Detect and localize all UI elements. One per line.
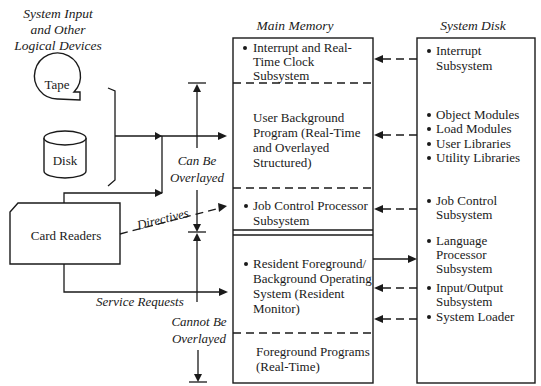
devices-title: System Input and Other Logical Devices [13, 6, 101, 53]
section-line: and Overlayed [253, 140, 330, 155]
section-line: System (Resident [253, 286, 345, 301]
main-memory-box: Interrupt and Real- Time Clock Subsystem… [233, 38, 373, 383]
item-line: Subsystem [436, 207, 492, 222]
section-line: Subsystem [253, 213, 309, 228]
can-be-overlayed-line-1: Can Be [178, 153, 217, 168]
cannot-be-overlayed-line-2: Overlayed [172, 331, 227, 346]
section-line: (Real-Time) [256, 359, 320, 374]
section-line: User Background [253, 110, 345, 125]
disk-label: Disk [53, 153, 78, 168]
os-memory-diagram: System Input and Other Logical Devices T… [0, 0, 541, 386]
card-readers-feed-line [64, 193, 162, 203]
main-memory-title: Main Memory [256, 18, 334, 33]
disk-item-system-loader: System Loader [427, 309, 515, 324]
memory-disk-connectors [373, 55, 417, 323]
service-requests-label: Service Requests [96, 294, 184, 309]
disk-item-language-processor: Language Processor Subsystem [427, 233, 492, 276]
system-disk-title: System Disk [440, 18, 507, 33]
disk-item-load-modules: Load Modules [427, 121, 511, 136]
disk-item-utility-libraries: Utility Libraries [427, 150, 520, 165]
card-readers-label: Card Readers [31, 228, 101, 243]
disk-item-job-control: Job Control Subsystem [427, 193, 497, 222]
section-line: Foreground Programs [256, 344, 370, 359]
item-line: Object Modules [436, 107, 519, 122]
item-line: User Libraries [436, 136, 511, 151]
can-be-overlayed-line-2: Overlayed [170, 170, 225, 185]
devices-title-line-1: System Input [23, 6, 94, 21]
item-line: Load Modules [436, 121, 511, 136]
item-line: Interrupt [436, 43, 482, 58]
item-line: Language [436, 233, 487, 248]
disk-device: Disk [44, 131, 86, 178]
section-line: Program (Real-Time [253, 125, 361, 140]
disk-item-object-modules: Object Modules [427, 107, 519, 122]
tape-label: Tape [44, 77, 69, 92]
section-line: Interrupt and Real- [253, 40, 352, 55]
item-line: Subsystem [436, 294, 492, 309]
system-disk-box: Interrupt Subsystem Object Modules Load … [417, 38, 535, 383]
section-line: Structured) [253, 155, 311, 170]
section-line: Time Clock [253, 54, 315, 69]
devices-title-line-2: and Other [30, 22, 86, 37]
card-readers-device: Card Readers [10, 203, 120, 264]
directives-label: Directives [134, 205, 190, 233]
device-bracket [108, 88, 115, 186]
item-line: System Loader [436, 309, 515, 324]
section-line: Subsystem [253, 68, 309, 83]
item-line: Job Control [436, 193, 497, 208]
cannot-be-overlayed-line-1: Cannot Be [171, 314, 226, 329]
item-line: Subsystem [436, 58, 492, 73]
disk-item-user-libraries: User Libraries [427, 136, 511, 151]
section-line: Job Control Processor [253, 198, 369, 213]
section-line: Monitor) [253, 301, 300, 316]
tape-device: Tape [34, 53, 80, 100]
item-line: Subsystem [436, 261, 492, 276]
item-line: Utility Libraries [436, 150, 520, 165]
item-line: Processor [436, 247, 487, 262]
disk-item-io-subsystem: Input/Output Subsystem [427, 280, 504, 309]
section-line: Resident Foreground/ [253, 256, 366, 271]
item-line: Input/Output [436, 280, 504, 295]
devices-title-line-3: Logical Devices [13, 38, 101, 53]
section-line: Background Operating [253, 271, 372, 286]
